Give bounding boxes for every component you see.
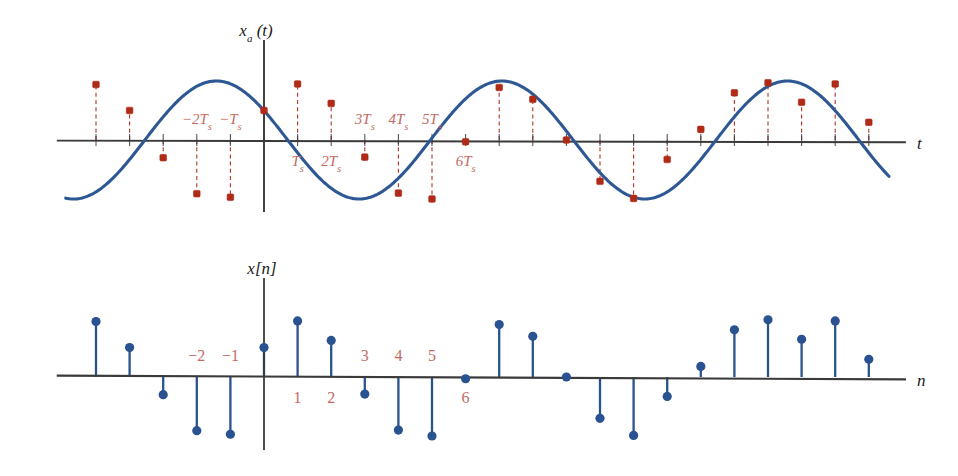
stem-marker xyxy=(159,390,168,399)
discrete-sequence-svg: −2−1123456x[n]n xyxy=(0,238,958,476)
sample-marker xyxy=(563,137,570,144)
sample-marker xyxy=(698,126,705,133)
stem-marker xyxy=(91,317,100,326)
t-axis-tick-label: 5Ts xyxy=(422,111,442,132)
stem-marker xyxy=(226,430,235,439)
sample-marker xyxy=(765,79,772,86)
sampling-figure: −2Ts−TsTs2Ts3Ts4Ts5Ts6Tsxa (t)t −2−11234… xyxy=(0,0,958,476)
sample-marker xyxy=(93,81,100,88)
stem-marker xyxy=(394,426,403,435)
t-axis-tick-label: −Ts xyxy=(219,111,242,132)
n-axis-tick-label: 4 xyxy=(394,347,402,364)
t-axis-tick-label: 2Ts xyxy=(321,153,341,174)
t-axis-line xyxy=(58,141,905,143)
stem-marker xyxy=(293,316,302,325)
stem-marker xyxy=(192,426,201,435)
stem-marker xyxy=(696,362,705,371)
sample-marker xyxy=(160,154,167,161)
sample-marker xyxy=(664,156,671,163)
sample-marker xyxy=(597,178,604,185)
continuous-signal-svg: −2Ts−TsTs2Ts3Ts4Ts5Ts6Tsxa (t)t xyxy=(0,0,958,238)
sample-marker xyxy=(227,194,234,201)
sample-marker xyxy=(630,195,637,202)
stem-marker xyxy=(360,390,369,399)
continuous-y-axis-label: xa (t) xyxy=(238,21,273,44)
stem-marker xyxy=(495,320,504,329)
n-axis-tick-label: 1 xyxy=(294,389,302,406)
sample-marker xyxy=(429,196,436,203)
stem-marker xyxy=(125,343,134,352)
stem-marker xyxy=(730,325,739,334)
stem-marker xyxy=(461,374,470,383)
sample-marker xyxy=(126,107,133,114)
t-axis-tick-label: 3Ts xyxy=(354,111,375,132)
sample-marker xyxy=(194,190,201,197)
stem-marker xyxy=(259,343,268,352)
stem-marker xyxy=(327,336,336,345)
continuous-signal-plot: −2Ts−TsTs2Ts3Ts4Ts5Ts6Tsxa (t)t xyxy=(0,0,958,238)
sample-marker xyxy=(362,154,369,161)
discrete-x-axis-label: n xyxy=(917,371,926,390)
stem-marker xyxy=(763,315,772,324)
stem-marker xyxy=(595,414,604,423)
sample-marker xyxy=(328,100,335,107)
n-axis-tick-label: 6 xyxy=(462,389,470,406)
continuous-x-axis-label: t xyxy=(917,134,923,153)
stem-marker xyxy=(663,392,672,401)
sample-marker xyxy=(261,107,268,114)
sample-marker xyxy=(530,96,537,103)
discrete-sequence-plot: −2−1123456x[n]n xyxy=(0,238,958,476)
t-axis-tick-label: 4Ts xyxy=(388,111,408,132)
n-axis-tick-label: −1 xyxy=(222,347,239,364)
n-axis-tick-label: −2 xyxy=(188,347,205,364)
sample-marker xyxy=(294,81,301,88)
sample-marker xyxy=(866,119,873,126)
sample-marker xyxy=(496,84,503,91)
sample-marker xyxy=(832,81,839,88)
n-axis-tick-label: 3 xyxy=(361,347,369,364)
stem-marker xyxy=(864,355,873,364)
n-axis-tick-label: 2 xyxy=(327,389,335,406)
stem-marker xyxy=(831,316,840,325)
discrete-y-axis-label: x[n] xyxy=(246,259,276,278)
n-axis-line xyxy=(58,376,905,380)
sample-marker xyxy=(462,138,469,145)
stem-marker xyxy=(528,332,537,341)
sample-marker xyxy=(798,99,805,106)
stem-marker xyxy=(629,431,638,440)
sample-marker xyxy=(395,190,402,197)
stem-marker xyxy=(427,431,436,440)
sample-marker xyxy=(731,90,738,97)
t-axis-tick-label: −2Ts xyxy=(182,111,212,132)
stem-marker xyxy=(797,335,806,344)
t-axis-tick-label: 6Ts xyxy=(456,153,476,174)
stem-marker xyxy=(562,372,571,381)
n-axis-tick-label: 5 xyxy=(428,347,436,364)
